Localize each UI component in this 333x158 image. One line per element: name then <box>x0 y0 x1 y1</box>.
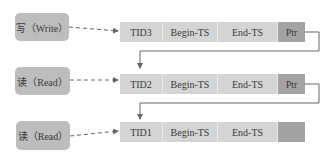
begin-ts-cell: Begin-TS <box>163 74 218 94</box>
read-operation-box-1: 读（Read） <box>15 67 70 95</box>
tid-cell: TID2 <box>120 74 163 94</box>
tid-cell: TID1 <box>120 122 163 142</box>
write-operation-box: 写（Write） <box>15 13 69 41</box>
read-operation-box-2: 读（Read） <box>16 121 70 150</box>
version-row-tid1: TID1 Begin-TS End-TS <box>120 122 305 142</box>
begin-ts-cell: Begin-TS <box>163 22 218 42</box>
version-row-tid2: TID2 Begin-TS End-TS Ptr <box>120 74 305 94</box>
ptr-cell-empty <box>278 122 305 142</box>
end-ts-cell: End-TS <box>218 74 278 94</box>
version-row-tid3: TID3 Begin-TS End-TS Ptr <box>120 22 305 42</box>
dashed-arrow-write <box>69 27 118 31</box>
begin-ts-cell: Begin-TS <box>163 122 218 142</box>
dashed-arrow-read-2 <box>70 131 118 136</box>
write-operation-label: 写（Write） <box>16 20 68 35</box>
read-operation-label: 读（Read） <box>18 128 69 143</box>
ptr-cell: Ptr <box>278 74 305 94</box>
ptr-cell: Ptr <box>278 22 305 42</box>
end-ts-cell: End-TS <box>218 122 278 142</box>
end-ts-cell: End-TS <box>218 22 278 42</box>
tid-cell: TID3 <box>120 22 163 42</box>
read-operation-label: 读（Read） <box>17 74 68 89</box>
